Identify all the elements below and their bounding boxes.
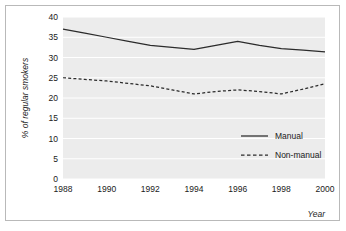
x-tick-label: 1988 — [54, 184, 73, 194]
y-tick-label: 15 — [49, 113, 59, 123]
x-tick-label: 1990 — [97, 184, 116, 194]
legend-label-manual: Manual — [275, 131, 303, 141]
y-tick-label: 0 — [53, 174, 58, 184]
line-chart: 0510152025303540 19881990199219941996199… — [6, 6, 339, 220]
x-axis-tick-labels: 1988199019921994199619982000 — [54, 184, 335, 194]
x-tick-label: 1996 — [228, 184, 247, 194]
y-tick-label: 25 — [49, 73, 59, 83]
x-axis-title: Year — [308, 209, 327, 219]
x-tick-label: 1994 — [185, 184, 204, 194]
legend-label-non-manual: Non-manual — [275, 150, 321, 160]
chart-figure: 0510152025303540 19881990199219941996199… — [5, 5, 340, 221]
y-tick-label: 40 — [49, 12, 59, 22]
x-tick-label: 2000 — [316, 184, 335, 194]
x-tick-label: 1998 — [272, 184, 291, 194]
y-tick-label: 20 — [49, 93, 59, 103]
x-tick-label: 1992 — [141, 184, 160, 194]
y-tick-label: 35 — [49, 32, 59, 42]
y-tick-label: 5 — [53, 154, 58, 164]
y-axis-title: % of regular smokers — [20, 57, 30, 138]
y-tick-label: 30 — [49, 53, 59, 63]
y-tick-label: 10 — [49, 134, 59, 144]
y-axis-tick-labels: 0510152025303540 — [49, 12, 59, 184]
